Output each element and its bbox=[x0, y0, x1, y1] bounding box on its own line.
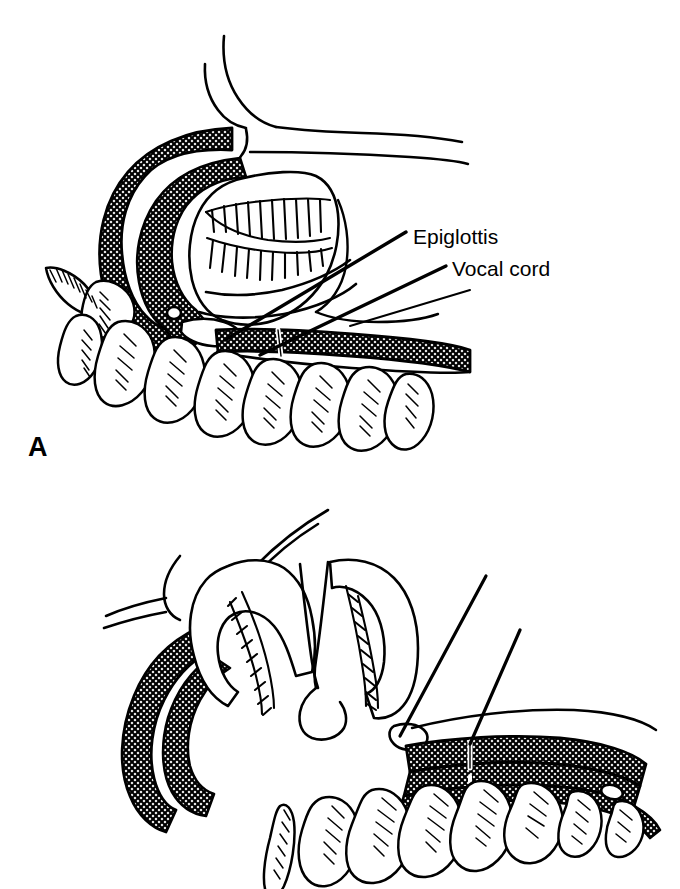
label-epiglottis-a: Epiglottis bbox=[413, 226, 498, 247]
panel-a: A Epiglottis Vocal cord bbox=[0, 0, 680, 480]
panel-b: B Epiglottis Vocal cord bbox=[0, 480, 680, 889]
label-vocal-cord-a: Vocal cord bbox=[452, 258, 550, 279]
panel-a-letter: A bbox=[28, 434, 48, 461]
panel-b-illustration bbox=[0, 480, 680, 889]
panel-a-illustration bbox=[0, 0, 680, 480]
anatomy-figure: A Epiglottis Vocal cord bbox=[0, 0, 680, 889]
hyoid-marker-a bbox=[167, 307, 181, 319]
